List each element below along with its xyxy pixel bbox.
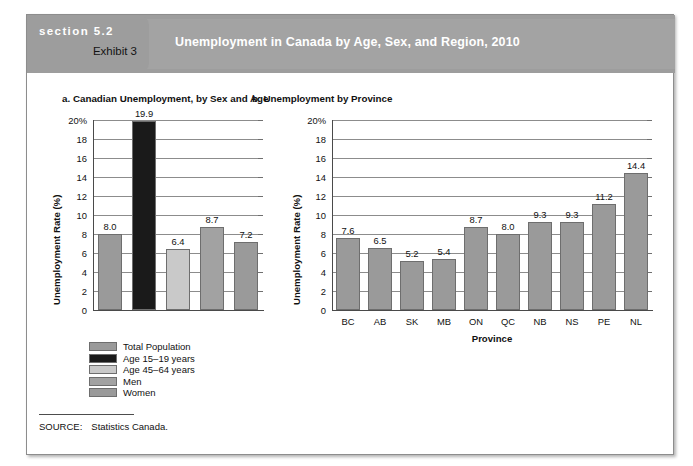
y-axis-line	[93, 120, 94, 311]
exhibit-card: Unemployment in Canada by Age, Sex, and …	[26, 14, 674, 455]
bar	[400, 261, 424, 310]
gridline	[93, 158, 263, 159]
y-axis-tick-label: 20%	[296, 115, 326, 126]
bar	[132, 121, 156, 310]
y-axis-tickmark	[258, 272, 263, 273]
source-divider	[39, 414, 134, 415]
bar	[464, 227, 488, 310]
y-axis-tick-label: 16	[57, 153, 87, 164]
exhibit-title: Unemployment in Canada by Age, Sex, and …	[175, 35, 520, 49]
source-row: SOURCE:Statistics Canada.	[39, 421, 168, 432]
bar	[368, 248, 392, 310]
legend-item-label: Age 45–64 years	[123, 364, 195, 375]
y-axis-tickmark	[647, 139, 652, 140]
bar	[560, 222, 584, 310]
x-axis-title: Province	[462, 333, 522, 344]
gridline	[332, 158, 652, 159]
x-axis-tick-label: NL	[614, 316, 658, 327]
bar	[592, 204, 616, 310]
bar-value-label: 11.2	[582, 191, 626, 202]
y-axis-title: Unemployment Rate (%)	[291, 195, 302, 305]
bar-value-label: 14.4	[614, 160, 658, 171]
legend-item-label: Women	[123, 387, 156, 398]
y-axis-tick-label: 20%	[57, 115, 87, 126]
y-axis-tick-label: 0	[57, 305, 87, 316]
bar	[98, 234, 122, 310]
panel-a-title: a. Canadian Unemployment, by Sex and Age	[62, 93, 269, 104]
legend-swatch	[89, 365, 117, 374]
x-axis-line	[332, 310, 653, 311]
y-axis-tickmark	[258, 158, 263, 159]
y-axis-line	[332, 120, 333, 311]
legend-swatch	[89, 388, 117, 397]
gridline	[332, 177, 652, 178]
bar	[336, 238, 360, 310]
bar-value-label: 5.4	[422, 246, 466, 257]
y-axis-tickmark	[258, 253, 263, 254]
gridline	[93, 177, 263, 178]
bar-value-label: 19.9	[122, 108, 166, 119]
y-axis-tickmark	[258, 291, 263, 292]
bar	[624, 173, 648, 310]
bar	[234, 242, 258, 310]
legend-item-label: Men	[123, 376, 141, 387]
x-axis-line	[93, 310, 264, 311]
bar-value-label: 8.0	[486, 221, 530, 232]
legend-swatch	[89, 354, 117, 363]
bar-value-label: 7.6	[326, 225, 370, 236]
bar-value-label: 7.2	[224, 229, 268, 240]
y-axis-tickmark	[647, 120, 652, 121]
bar	[200, 227, 224, 310]
y-axis-tick-label: 0	[296, 305, 326, 316]
bar-value-label: 8.0	[88, 221, 132, 232]
bar-value-label: 9.3	[550, 209, 594, 220]
y-axis-tickmark	[258, 177, 263, 178]
panel-b-title: b. Unemployment by Province	[252, 93, 392, 104]
legend-item-label: Total Population	[123, 341, 191, 352]
bar-value-label: 8.7	[190, 214, 234, 225]
exhibit-header: Unemployment in Canada by Age, Sex, and …	[27, 15, 675, 73]
legend-item-label: Age 15–19 years	[123, 353, 195, 364]
gridline	[93, 215, 263, 216]
exhibit-number-label: Exhibit 3	[93, 45, 137, 57]
gridline	[93, 120, 263, 121]
y-axis-tickmark	[258, 120, 263, 121]
bar	[528, 222, 552, 310]
y-axis-title: Unemployment Rate (%)	[51, 195, 62, 305]
y-axis-tick-label: 16	[296, 153, 326, 164]
bar	[496, 234, 520, 310]
legend-swatch	[89, 377, 117, 386]
y-axis-tick-label: 18	[296, 134, 326, 145]
y-axis-tickmark	[258, 196, 263, 197]
source-label: SOURCE:	[39, 421, 82, 432]
bar	[432, 259, 456, 310]
y-axis-tickmark	[258, 139, 263, 140]
gridline	[332, 139, 652, 140]
gridline	[93, 196, 263, 197]
bar-value-label: 6.4	[156, 236, 200, 247]
y-axis-tick-label: 18	[57, 134, 87, 145]
section-number-label: section 5.2	[39, 25, 114, 37]
y-axis-tick-label: 14	[57, 172, 87, 183]
section-tab: section 5.2 Exhibit 3	[27, 15, 149, 73]
gridline	[93, 139, 263, 140]
source-text: Statistics Canada.	[91, 421, 168, 432]
y-axis-tickmark	[258, 215, 263, 216]
bar-value-label: 6.5	[358, 235, 402, 246]
y-axis-tickmark	[647, 158, 652, 159]
y-axis-tick-label: 14	[296, 172, 326, 183]
bar	[166, 249, 190, 310]
legend-swatch	[89, 342, 117, 351]
gridline	[332, 120, 652, 121]
